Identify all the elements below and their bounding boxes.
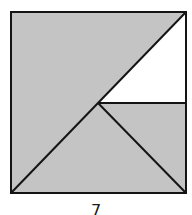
geometry-figure — [0, 0, 192, 215]
figure-caption: 7 — [0, 203, 192, 215]
